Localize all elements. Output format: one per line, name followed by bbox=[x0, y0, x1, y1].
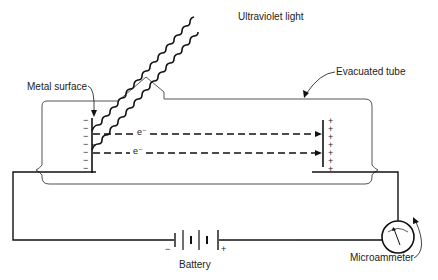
negative-charge: − bbox=[83, 164, 88, 173]
battery-label: Battery bbox=[179, 259, 211, 270]
microammeter-label: Microammeter bbox=[350, 252, 414, 263]
battery-positive-terminal: + bbox=[221, 245, 226, 254]
electron-path-2 bbox=[93, 150, 322, 156]
evacuated-tube-leader bbox=[306, 72, 335, 94]
microammeter-leader bbox=[414, 222, 422, 258]
battery-negative-terminal: − bbox=[165, 245, 170, 254]
microammeter-icon bbox=[382, 221, 414, 253]
circuit-wire-right bbox=[312, 172, 398, 221]
electron-label: e⁻ bbox=[137, 128, 147, 137]
metal-surface-label: Metal surface bbox=[27, 81, 87, 92]
photoelectric-diagram bbox=[0, 0, 438, 280]
circuit-wire-left bbox=[13, 172, 174, 240]
metal-surface-leader bbox=[88, 86, 94, 112]
electron-path-1 bbox=[93, 131, 322, 137]
uv-ray-1 bbox=[92, 17, 194, 131]
uv-light-label: Ultraviolet light bbox=[238, 11, 304, 22]
evacuated-tube-label: Evacuated tube bbox=[336, 66, 406, 77]
positive-charge: + bbox=[328, 165, 333, 174]
electron-label: e⁻ bbox=[133, 147, 143, 156]
battery-icon bbox=[175, 230, 218, 250]
